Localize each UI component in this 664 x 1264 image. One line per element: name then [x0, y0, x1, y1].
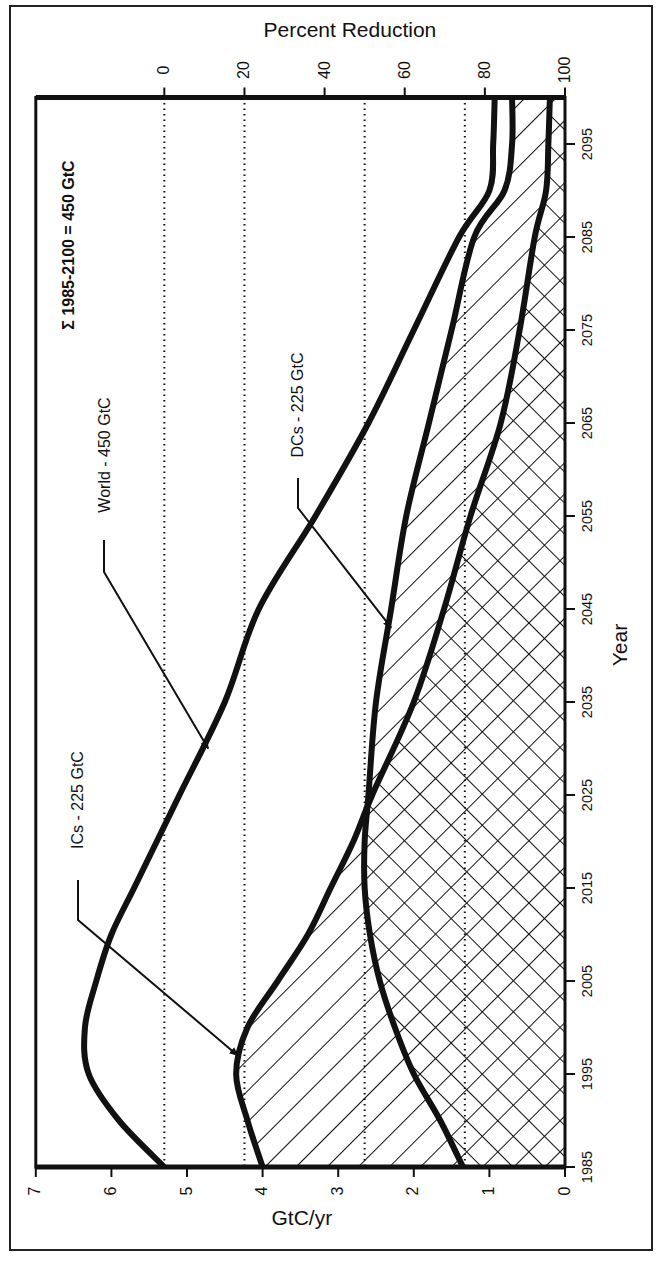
year-tick-label: 2065 — [579, 407, 595, 439]
gtc-tick-label: 3 — [329, 1187, 347, 1196]
year-tick-label: 1995 — [579, 1058, 595, 1090]
gtc-axis-title: GtC/yr — [272, 1206, 333, 1230]
year-tick-label: 2055 — [579, 500, 595, 532]
chart-plot — [0, 0, 664, 1264]
gtc-tick-label: 2 — [405, 1187, 423, 1196]
percent-tick-label: 100 — [556, 56, 574, 83]
year-tick-label: 2085 — [579, 221, 595, 253]
gtc-tick-label: 5 — [178, 1187, 196, 1196]
hatched-areas — [236, 98, 565, 1168]
gtc-tick-label: 6 — [102, 1187, 120, 1196]
ics-series-label: ICs - 225 GtC — [69, 751, 87, 849]
year-tick-label: 2015 — [579, 872, 595, 904]
gtc-tick-label: 0 — [556, 1187, 574, 1196]
world-leader-arrow — [104, 540, 208, 749]
dcs-leader-arrow — [298, 478, 391, 628]
gtc-tick-label: 1 — [480, 1187, 498, 1196]
percent-tick-label: 40 — [315, 61, 333, 79]
percent-tick-label: 80 — [476, 61, 494, 79]
gtc-tick-label: 7 — [27, 1187, 45, 1196]
percent-tick-label: 20 — [235, 61, 253, 79]
percent-tick-label: 60 — [396, 61, 414, 79]
year-tick-label: 2075 — [579, 314, 595, 346]
year-tick-label: 2025 — [579, 779, 595, 811]
percent-reduction-axis-title: Percent Reduction — [264, 18, 437, 42]
dcs-series-label: DCs - 225 GtC — [289, 353, 307, 458]
world-series-label: World - 450 GtC — [95, 397, 113, 512]
gtc-tick-label: 4 — [254, 1187, 272, 1196]
year-axis-title: Year — [608, 624, 632, 666]
year-tick-label: 2035 — [579, 686, 595, 718]
percent-tick-label: 0 — [155, 65, 173, 74]
year-tick-label: 2095 — [579, 128, 595, 160]
year-tick-label: 2005 — [579, 965, 595, 997]
year-tick-label: 2045 — [579, 593, 595, 625]
year-tick-label: 1985 — [579, 1151, 595, 1183]
sum-annotation: Σ 1985-2100 = 450 GtC — [59, 160, 77, 329]
